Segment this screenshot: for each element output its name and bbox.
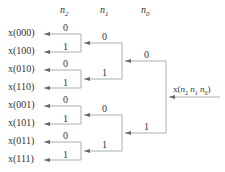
header-n2: n2 — [60, 4, 69, 18]
branch-label: 0 — [144, 49, 149, 60]
branch-label: 0 — [63, 94, 68, 105]
branch-label: 0 — [63, 130, 68, 141]
output-label: x(110) — [8, 81, 34, 92]
output-label: x(000) — [8, 27, 35, 38]
diagram-labels: n2 n1 n0 x(000) x(100) x(010) x(110) x(0… — [0, 0, 225, 172]
branch-label: 0 — [63, 22, 68, 33]
branch-label: 0 — [63, 58, 68, 69]
output-label: x(100) — [8, 45, 35, 56]
branch-label: 1 — [102, 67, 107, 78]
output-label: x(010) — [8, 63, 35, 74]
output-label: x(111) — [8, 153, 34, 164]
branch-label: 0 — [102, 31, 107, 42]
header-n1: n1 — [100, 4, 109, 18]
input-label: x(n2 n1 n0) — [173, 84, 211, 96]
header-n0: n0 — [141, 4, 150, 18]
branch-label: 1 — [63, 41, 68, 52]
branch-label: 1 — [63, 77, 68, 88]
branch-label: 1 — [63, 149, 68, 160]
branch-label: 1 — [63, 113, 68, 124]
branch-label: 1 — [144, 121, 149, 132]
branch-label: 1 — [102, 139, 107, 150]
output-label: x(101) — [8, 117, 35, 128]
output-label: x(011) — [8, 135, 34, 146]
branch-label: 0 — [102, 103, 107, 114]
output-label: x(001) — [8, 99, 35, 110]
